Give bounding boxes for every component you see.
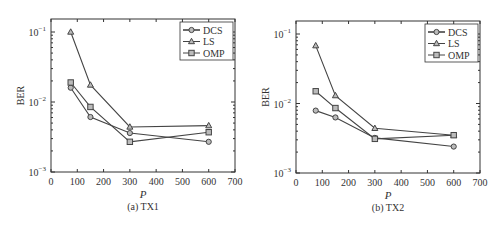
circle-marker-icon [313,108,318,113]
x-tick-label: 100 [315,177,330,188]
legend: DCSLSOMP [425,24,478,62]
square-legend-icon [434,52,439,57]
y-axis-label: BER [260,87,271,107]
legend-label: DCS [203,25,222,36]
legend-label: LS [203,36,215,47]
triangle-marker-icon [87,82,93,87]
x-tick-label: 400 [149,176,164,187]
square-legend-icon [189,50,194,55]
legend-label: DCS [448,27,467,38]
x-tick-label: 200 [341,177,356,188]
x-tick-label: 100 [70,176,85,187]
y-tick-label: 10−3 [29,165,47,178]
legend-label: LS [448,38,460,49]
chart-panel-tx2: 010020030040050060070010−310−210−1PBER(b… [246,0,495,225]
square-marker-icon [333,105,338,110]
x-tick-label: 600 [201,176,216,187]
circle-marker-icon [206,139,211,144]
y-tick-label: 10−3 [274,166,292,179]
y-axis-label: BER [15,85,26,105]
y-tick-label: 10−2 [29,95,47,108]
chart-panel-tx1: 010020030040050060070010−310−210−1PBER(a… [0,0,249,225]
series-dcs [68,85,211,144]
x-tick-label: 400 [394,177,409,188]
y-tick-label: 10−1 [274,27,292,40]
square-marker-icon [372,136,377,141]
x-tick-label: 600 [446,177,461,188]
square-marker-icon [127,139,132,144]
series-line [71,82,209,141]
circle-marker-icon [127,130,132,135]
x-tick-label: 500 [420,177,435,188]
triangle-marker-icon [68,29,74,34]
triangle-marker-icon [313,42,319,47]
square-marker-icon [68,80,73,85]
legend-label: OMP [203,48,225,59]
square-marker-icon [88,104,93,109]
x-axis-label: P [384,189,392,201]
square-marker-icon [206,130,211,135]
x-tick-label: 700 [228,176,243,187]
x-tick-label: 0 [294,177,299,188]
square-marker-icon [451,132,456,137]
square-marker-icon [313,89,318,94]
y-tick-label: 10−1 [29,25,47,38]
legend: DCSLSOMP [180,22,233,60]
x-tick-label: 300 [122,176,137,187]
triangle-marker-icon [332,92,338,97]
chart-caption: (b) TX2 [372,202,404,214]
legend-label: OMP [448,50,470,61]
x-axis-label: P [139,188,147,200]
circle-marker-icon [451,144,456,149]
circle-marker-icon [68,85,73,90]
series-omp [68,80,211,145]
circle-marker-icon [88,114,93,119]
circle-marker-icon [333,115,338,120]
chart-caption: (a) TX1 [127,201,159,213]
x-tick-label: 300 [367,177,382,188]
y-tick-label: 10−2 [274,97,292,110]
x-tick-label: 500 [175,176,190,187]
chart-tx2: 010020030040050060070010−310−210−1PBER(b… [246,0,498,225]
circle-legend-icon [434,29,439,34]
x-tick-label: 200 [96,176,111,187]
x-tick-label: 700 [473,177,488,188]
circle-legend-icon [189,27,194,32]
chart-tx1: 010020030040050060070010−310−210−1PBER(a… [0,0,249,225]
x-tick-label: 0 [49,176,54,187]
